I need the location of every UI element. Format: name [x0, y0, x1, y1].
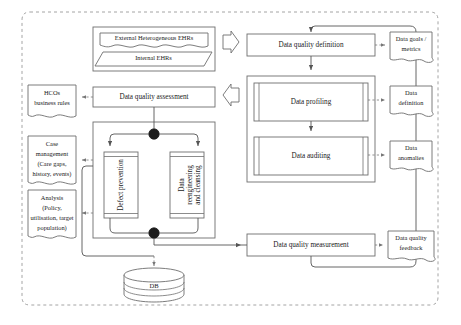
database-top-ellipse [124, 268, 184, 282]
data-quality-feedback-line2: feedback [399, 244, 423, 251]
diagram-canvas: External Heterogeneous EHRs Internal EHR… [0, 0, 461, 325]
data-anomalies-line1: Data [405, 144, 417, 151]
data-goals-metrics-line1: Data goals / [396, 35, 427, 42]
hcos-business-rules-line1: HCOs [44, 89, 60, 96]
diagram-svg: External Heterogeneous EHRs Internal EHR… [0, 0, 461, 325]
data-goals-metrics-line2: metrics [402, 45, 421, 52]
data-auditing-label: Data auditing [292, 152, 331, 160]
junction-dot-bottom [149, 228, 159, 238]
data-definition-line2: definition [399, 99, 425, 106]
case-management-line2: management [36, 150, 69, 157]
data-quality-definition-label: Data quality definition [278, 41, 343, 49]
conn-assessment-to-measurement [154, 238, 241, 245]
left-note-hcos-business-rules: HCOs business rules [28, 85, 76, 117]
outer-dashed-frame [22, 12, 438, 305]
data-definition-line1: Data [405, 89, 417, 96]
hcos-business-rules-line2: business rules [34, 99, 70, 106]
analysis-line3: utilisation, target [30, 214, 73, 221]
defect-prevention-label: Defect prevention [117, 159, 125, 211]
analysis-line1: Analysis [41, 194, 64, 201]
chevron-left-icon [223, 84, 239, 106]
right-note-data-goals-metrics: Data goals / metrics [390, 32, 433, 62]
internal-ehrs-label: Internal EHRs [135, 54, 172, 61]
left-note-case-management: Case management (Care gaps, history, eve… [28, 136, 76, 184]
right-note-data-quality-feedback: Data quality feedback [388, 231, 435, 261]
conn-defect-to-junction-bottom [110, 218, 149, 233]
database-label: DB [149, 282, 159, 289]
right-note-data-anomalies: Data anomalies [390, 141, 433, 171]
right-note-data-definition: Data definition [390, 86, 433, 116]
external-ehrs-label: External Heterogeneous EHRs [115, 34, 194, 41]
database-cylinder: DB [124, 268, 184, 302]
junction-dot-top [149, 129, 159, 139]
data-quality-assessment-label: Data quality assessment [119, 93, 188, 101]
conn-junction-top-to-defect [110, 134, 149, 146]
data-reengineering-label-line2: reengineering [186, 165, 194, 205]
analysis-line4: population) [37, 224, 66, 232]
case-management-line1: Case [46, 140, 59, 147]
data-reengineering-label-line3: and cleansing [194, 165, 202, 205]
analysis-line2: (Policy, [42, 204, 62, 212]
case-management-line3: (Care gaps, [37, 160, 67, 168]
case-management-line4: history, events) [33, 170, 72, 178]
data-quality-feedback-line1: Data quality [395, 234, 427, 241]
data-quality-measurement-label: Data quality measurement [273, 241, 348, 249]
data-anomalies-line2: anomalies [398, 154, 424, 161]
data-profiling-label: Data profiling [291, 98, 332, 106]
conn-reeng-to-junction-bottom [159, 218, 198, 233]
conn-junction-top-to-reeng [159, 134, 198, 146]
data-reengineering-label-line1: Data [178, 177, 186, 191]
left-note-analysis: Analysis (Policy, utilisation, target po… [28, 190, 76, 238]
chevron-right-icon [223, 31, 239, 53]
